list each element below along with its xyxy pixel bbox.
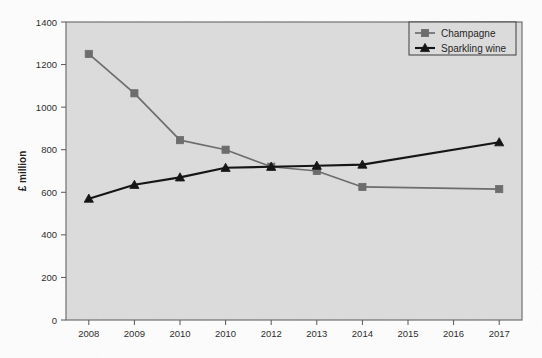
line-chart-figure: 0200400600800100012001400 20082009201020… — [0, 0, 542, 358]
chart-legend: ChampagneSparkling wine — [409, 22, 516, 55]
y-axis-title: £ million — [17, 151, 28, 192]
x-tick-label: 2008 — [78, 328, 99, 339]
square-marker — [85, 50, 92, 57]
x-tick-label: 2012 — [261, 328, 282, 339]
square-marker — [421, 29, 428, 36]
plot-area-background — [66, 22, 522, 320]
y-tick-label: 400 — [41, 229, 57, 240]
square-marker — [496, 185, 503, 192]
legend-label: Champagne — [441, 28, 496, 39]
chart-canvas: 0200400600800100012001400 20082009201020… — [0, 0, 542, 358]
x-tick-label: 2010 — [215, 328, 236, 339]
y-tick-label: 0 — [52, 315, 57, 326]
x-tick-label: 2016 — [443, 328, 464, 339]
x-tick-label: 2009 — [124, 328, 145, 339]
square-marker — [359, 183, 366, 190]
y-tick-label: 200 — [41, 272, 57, 283]
x-axis: 2008200920102010201220132014201520162017 — [78, 320, 510, 339]
y-tick-label: 800 — [41, 144, 57, 155]
y-tick-label: 1200 — [36, 59, 57, 70]
square-marker — [222, 146, 229, 153]
square-marker — [176, 137, 183, 144]
y-axis: 0200400600800100012001400 — [36, 17, 66, 326]
legend-label: Sparkling wine — [441, 43, 506, 54]
x-tick-label: 2010 — [169, 328, 190, 339]
x-tick-label: 2014 — [352, 328, 373, 339]
x-tick-label: 2013 — [306, 328, 327, 339]
x-tick-label: 2015 — [397, 328, 418, 339]
y-tick-label: 600 — [41, 187, 57, 198]
x-tick-label: 2017 — [489, 328, 510, 339]
square-marker — [131, 90, 138, 97]
y-tick-label: 1400 — [36, 17, 57, 28]
y-tick-label: 1000 — [36, 102, 57, 113]
